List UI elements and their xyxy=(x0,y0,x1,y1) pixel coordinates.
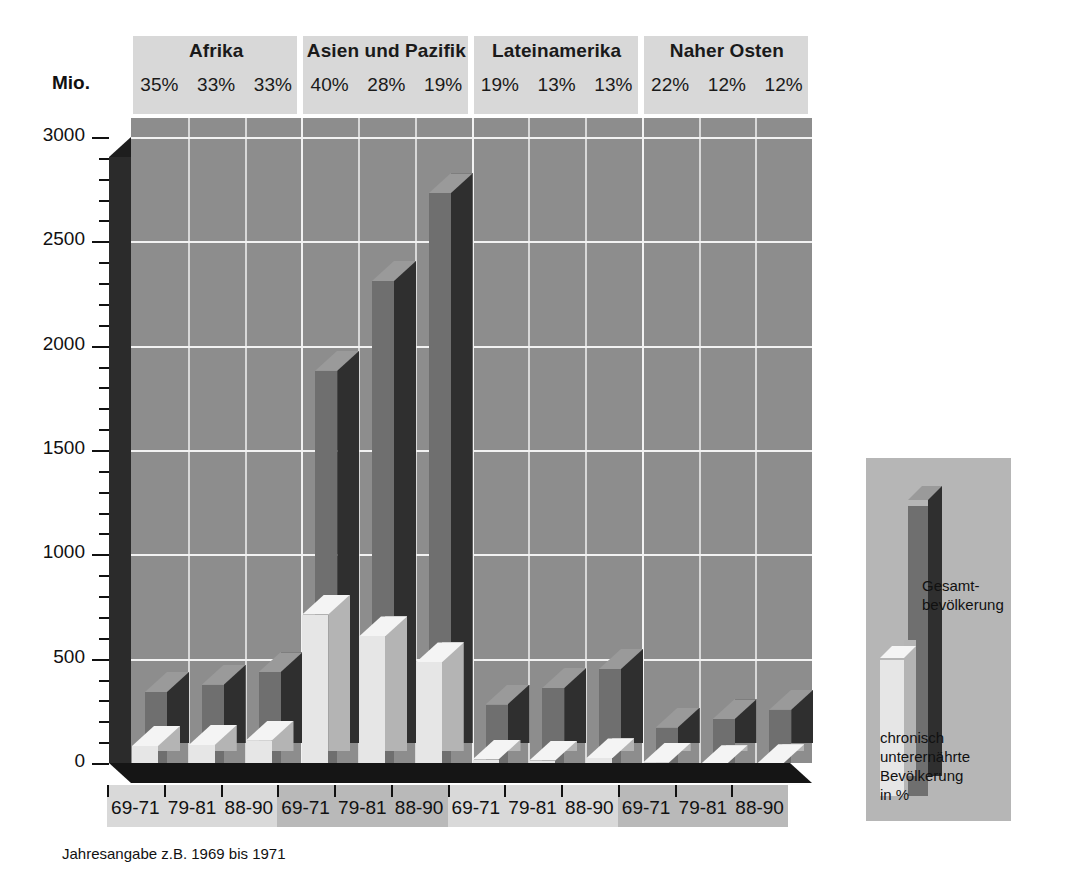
percent-label: 13% xyxy=(528,74,585,96)
y-axis-tick-minor xyxy=(99,429,109,431)
group-title: Afrika xyxy=(131,40,301,62)
percent-label: 13% xyxy=(585,74,642,96)
percent-label: 12% xyxy=(699,74,756,96)
x-axis-tick-label: 79-81 xyxy=(334,797,391,819)
x-axis-tick-label: 69-71 xyxy=(618,797,675,819)
y-axis-tick-minor xyxy=(99,179,109,181)
x-axis-tick-label: 69-71 xyxy=(448,797,505,819)
y-axis-tick-minor xyxy=(99,325,109,327)
y-axis-tick-minor xyxy=(99,638,109,640)
y-axis-tick-major xyxy=(92,241,109,243)
y-axis-tick-minor xyxy=(99,387,109,389)
y-axis-tick-label: 0 xyxy=(0,750,85,772)
y-axis-tick-major xyxy=(92,763,109,765)
legend-label-undernourished: chronisch unterernährte Bevölkerung in % xyxy=(880,728,970,804)
percent-label: 33% xyxy=(245,74,302,96)
x-axis-tick-label: 88-90 xyxy=(561,797,618,819)
y-axis-tick-major xyxy=(92,346,109,348)
bar-front-face xyxy=(416,662,442,771)
gridline-vertical xyxy=(585,118,587,763)
y-axis-tick-minor xyxy=(99,533,109,535)
y-axis-tick-label: 1000 xyxy=(0,541,85,563)
y-axis-tick-minor xyxy=(99,262,109,264)
x-axis-tick xyxy=(221,785,223,797)
x-axis-tick xyxy=(164,785,166,797)
y-axis-tick-major xyxy=(92,554,109,556)
gridline-vertical xyxy=(755,118,757,763)
x-axis-tick xyxy=(731,785,733,797)
bar-side-face xyxy=(385,616,407,751)
y-axis-tick-minor xyxy=(99,680,109,682)
axis-wall-cap xyxy=(109,137,131,157)
y-axis-tick-minor xyxy=(99,304,109,306)
x-axis-tick-label: 88-90 xyxy=(731,797,788,819)
y-axis-tick-major xyxy=(92,137,109,139)
x-axis-tick-label: 88-90 xyxy=(391,797,448,819)
group-title: Lateinamerika xyxy=(472,40,642,62)
legend: Gesamt- bevölkerung chronisch unterernäh… xyxy=(866,458,1011,821)
x-axis-tick-label: 88-90 xyxy=(221,797,278,819)
x-axis-tick xyxy=(391,785,393,797)
x-axis-tick-label: 79-81 xyxy=(504,797,561,819)
y-axis-tick-minor xyxy=(99,575,109,577)
group-title: Naher Osten xyxy=(642,40,812,62)
y-axis-tick-minor xyxy=(99,367,109,369)
y-axis-tick-minor xyxy=(99,283,109,285)
y-axis-tick-minor xyxy=(99,742,109,744)
footnote: Jahresangabe z.B. 1969 bis 1971 xyxy=(62,845,286,862)
x-axis-tick-label: 69-71 xyxy=(107,797,164,819)
y-axis-tick-minor xyxy=(99,721,109,723)
bar-undernourished xyxy=(302,595,328,772)
bar-front-face xyxy=(302,615,328,772)
y-axis-tick-minor xyxy=(99,596,109,598)
y-axis-tick-label: 1500 xyxy=(0,437,85,459)
bar-undernourished xyxy=(359,616,385,771)
x-axis-tick xyxy=(334,785,336,797)
x-axis-tick xyxy=(675,785,677,797)
y-axis-unit-label: Mio. xyxy=(52,72,90,94)
y-axis-tick-major xyxy=(92,450,109,452)
bar-front-face xyxy=(359,636,385,771)
percent-label: 35% xyxy=(131,74,188,96)
y-axis-tick-label: 2000 xyxy=(0,333,85,355)
percent-label: 19% xyxy=(472,74,529,96)
x-axis-tick xyxy=(107,785,109,797)
y-axis-tick-minor xyxy=(99,200,109,202)
gridline-vertical xyxy=(699,118,701,763)
y-axis-tick-minor xyxy=(99,617,109,619)
y-axis-tick-major xyxy=(92,659,109,661)
axis-wall xyxy=(109,157,131,763)
y-axis-tick-minor xyxy=(99,220,109,222)
percent-label: 19% xyxy=(415,74,472,96)
x-axis-tick xyxy=(277,785,279,797)
y-axis-tick-minor xyxy=(99,471,109,473)
chart-floor xyxy=(109,763,812,783)
y-axis-tick-minor xyxy=(99,408,109,410)
percent-label: 33% xyxy=(188,74,245,96)
percent-label: 22% xyxy=(642,74,699,96)
percent-label: 40% xyxy=(301,74,358,96)
y-axis-tick-label: 3000 xyxy=(0,124,85,146)
y-axis-tick-label: 2500 xyxy=(0,228,85,250)
y-axis-tick-label: 500 xyxy=(0,646,85,668)
x-axis-tick xyxy=(504,785,506,797)
x-axis-tick xyxy=(561,785,563,797)
x-axis-tick-label: 79-81 xyxy=(164,797,221,819)
y-axis-tick-minor xyxy=(99,492,109,494)
x-axis-tick xyxy=(448,785,450,797)
percent-label: 28% xyxy=(358,74,415,96)
legend-label-total: Gesamt- bevölkerung xyxy=(922,576,1004,614)
y-axis-tick-minor xyxy=(99,513,109,515)
bar-undernourished xyxy=(416,642,442,771)
gridline-vertical xyxy=(528,118,530,763)
percent-label: 12% xyxy=(755,74,812,96)
gridline-vertical xyxy=(188,118,190,763)
group-title: Asien und Pazifik xyxy=(301,40,471,62)
bar-side-face xyxy=(328,595,350,752)
x-axis-tick-label: 79-81 xyxy=(675,797,732,819)
y-axis-tick-minor xyxy=(99,700,109,702)
y-axis-tick-minor xyxy=(99,158,109,160)
x-axis-tick-label: 69-71 xyxy=(277,797,334,819)
chart-canvas: Mio. Afrika35%33%33%Asien und Pazifik40%… xyxy=(0,0,1068,879)
x-axis-tick xyxy=(618,785,620,797)
